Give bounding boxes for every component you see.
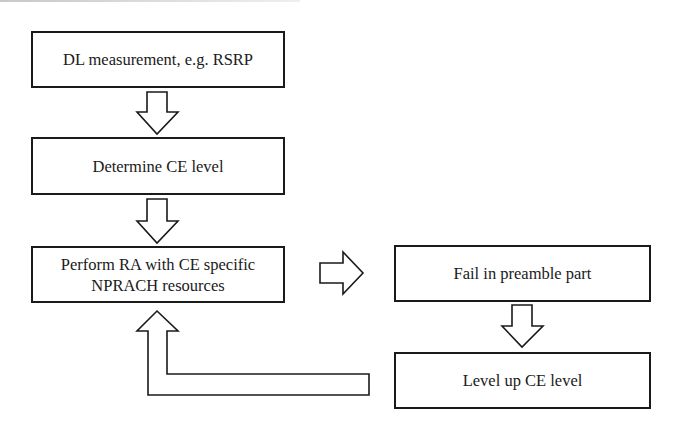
- arrow-down-icon: [137, 199, 178, 243]
- arrow-right-icon: [320, 252, 363, 294]
- arrow-loop-back-icon: [137, 311, 369, 395]
- arrow-down-icon: [502, 305, 543, 347]
- arrows-layer: [0, 0, 680, 437]
- arrow-down-icon: [137, 92, 178, 134]
